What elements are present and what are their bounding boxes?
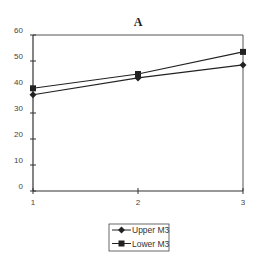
- legend: Upper M3Lower M3: [109, 224, 170, 251]
- square-marker-icon: [240, 49, 246, 55]
- y-axis: 0102030405060: [14, 26, 36, 191]
- series-lower-m3: [30, 49, 246, 91]
- diamond-marker-icon: [30, 91, 37, 98]
- legend-label: Lower M3: [132, 239, 170, 249]
- y-tick-label: 60: [14, 26, 23, 35]
- y-tick-label: 0: [19, 182, 24, 191]
- chart-title: A: [134, 15, 143, 29]
- x-tick-label: 1: [31, 198, 36, 207]
- diamond-marker-icon: [240, 61, 247, 68]
- square-marker-icon: [119, 241, 125, 247]
- y-tick-label: 40: [14, 78, 23, 87]
- line-chart: A 0102030405060 123 Upper M3Lower M3: [0, 0, 260, 263]
- legend-label: Upper M3: [132, 225, 170, 235]
- y-tick-label: 50: [14, 52, 23, 61]
- square-marker-icon: [135, 71, 141, 77]
- x-tick-label: 3: [241, 198, 246, 207]
- series-upper-m3: [30, 61, 247, 98]
- series-layer: [30, 49, 247, 98]
- y-tick-label: 20: [14, 130, 23, 139]
- x-axis: 123: [31, 188, 246, 207]
- x-tick-label: 2: [136, 198, 141, 207]
- y-tick-label: 10: [14, 156, 23, 165]
- y-tick-label: 30: [14, 104, 23, 113]
- square-marker-icon: [30, 85, 36, 91]
- series-line: [33, 52, 243, 88]
